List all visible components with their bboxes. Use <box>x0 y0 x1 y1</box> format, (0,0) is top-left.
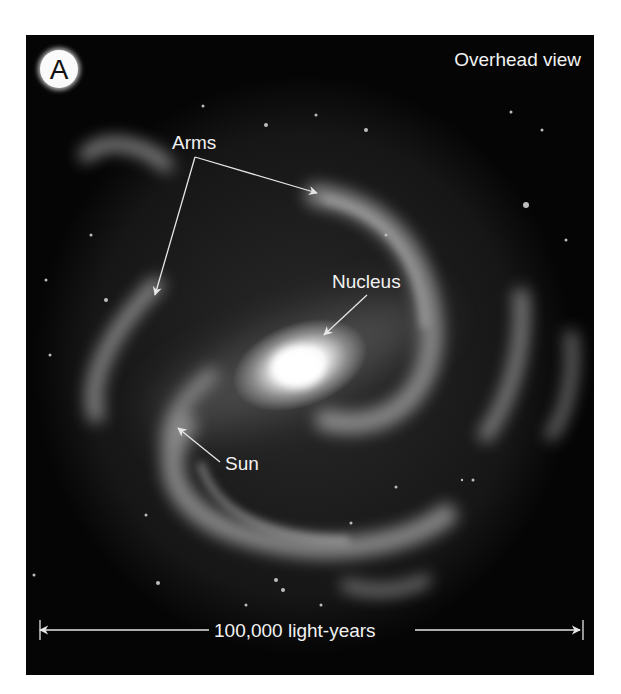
nucleus-core <box>272 347 324 387</box>
arms-label: Arms <box>172 133 216 152</box>
figure-title: Overhead view <box>454 50 581 69</box>
scale-bar-label: 100,000 light-years <box>214 621 376 640</box>
panel-letter-badge: A <box>40 50 78 88</box>
nucleus-label: Nucleus <box>332 272 401 291</box>
galaxy-image <box>26 35 594 675</box>
galaxy-figure-panel: A Overhead view Arms Nucleus Sun 100,000… <box>26 35 594 675</box>
sun-label: Sun <box>225 454 259 473</box>
